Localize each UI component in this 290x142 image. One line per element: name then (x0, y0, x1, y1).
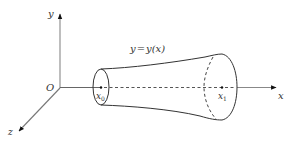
origin-label: O (46, 82, 54, 93)
x0-point (100, 86, 102, 88)
x-axis-label: x (278, 90, 284, 101)
x0-label: x0 (96, 91, 105, 102)
lower-profile-curve (101, 105, 222, 120)
curve-equation-label: y=y(x) (129, 43, 165, 54)
z-axis (19, 88, 60, 131)
right-cross-section-front-arc (222, 54, 237, 120)
solid-of-revolution-diagram: y z x O y=y(x) x0 x1 (0, 0, 290, 142)
x1-label: x1 (218, 91, 227, 102)
z-axis-label: z (7, 127, 13, 137)
x1-point (221, 86, 223, 88)
y-axis-label: y (47, 8, 54, 19)
upper-profile-curve (101, 54, 222, 69)
